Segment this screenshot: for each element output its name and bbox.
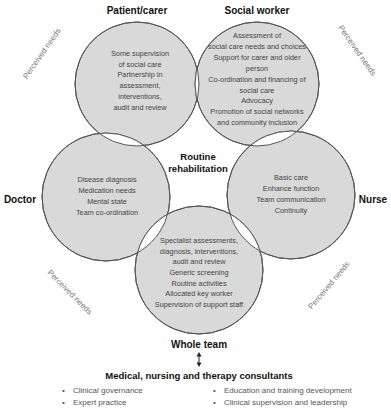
social-worker-circle xyxy=(195,22,319,146)
svg-text:Team co-ordination: Team co-ordination xyxy=(76,208,138,217)
svg-text:interventions,: interventions, xyxy=(118,92,161,101)
svg-text:of social care: of social care xyxy=(119,60,162,69)
role-label-patient-carer: Patient/carer xyxy=(107,5,168,16)
svg-text:•: • xyxy=(213,386,216,395)
center-label-line-1: Routine xyxy=(180,151,215,162)
perceived-needs-top-left: Perceived needs xyxy=(21,27,63,81)
svg-text:•: • xyxy=(62,398,65,407)
svg-text:Advocacy: Advocacy xyxy=(241,96,273,105)
svg-text:Team communication: Team communication xyxy=(257,195,326,204)
role-label-whole-team: Whole team xyxy=(171,339,227,350)
svg-text:Promotion of social networks: Promotion of social networks xyxy=(210,107,304,116)
svg-text:Supervision of support staff: Supervision of support staff xyxy=(155,300,244,309)
consultants-bullets-right: • Education and training development • C… xyxy=(213,386,352,407)
consultants-title: Medical, nursing and therapy consultants xyxy=(105,370,292,381)
svg-text:Support for carer and older: Support for carer and older xyxy=(213,53,301,62)
svg-text:audit and review: audit and review xyxy=(113,103,167,112)
svg-text:diagnosis, interventions,: diagnosis, interventions, xyxy=(160,247,238,256)
double-arrow-icon xyxy=(197,352,202,367)
svg-text:Education and training develop: Education and training development xyxy=(224,386,352,395)
svg-text:Partnership in: Partnership in xyxy=(117,70,162,79)
svg-text:Medication needs: Medication needs xyxy=(78,186,136,195)
svg-text:social care: social care xyxy=(240,86,275,95)
svg-text:Clinical governance: Clinical governance xyxy=(73,386,143,395)
svg-text:Expert practice: Expert practice xyxy=(73,398,127,407)
center-label-line-2: rehabilitation xyxy=(168,163,228,174)
role-label-social-worker: Social worker xyxy=(224,5,289,16)
role-label-nurse: Nurse xyxy=(359,194,388,205)
svg-text:•: • xyxy=(62,386,65,395)
svg-text:person: person xyxy=(246,64,268,73)
svg-text:Clinical supervision and leade: Clinical supervision and leadership xyxy=(224,398,348,407)
perceived-needs-bottom-right: Perceived needs xyxy=(306,260,351,311)
svg-text:social care needs and choices: social care needs and choices xyxy=(208,42,306,51)
svg-text:assessment,: assessment, xyxy=(120,81,161,90)
social-worker-items: Assessment of social care needs and choi… xyxy=(208,31,307,127)
svg-text:Co-ordination and financing of: Co-ordination and financing of xyxy=(208,75,306,84)
svg-text:Mental state: Mental state xyxy=(87,197,127,206)
svg-text:Generic screening: Generic screening xyxy=(169,268,228,277)
svg-text:audit and review: audit and review xyxy=(172,257,226,266)
svg-text:Specialist assessments,: Specialist assessments, xyxy=(160,236,238,245)
svg-text:Allocated key worker: Allocated key worker xyxy=(165,289,233,298)
rehabilitation-venn-diagram: Patient/carer Social worker Doctor Nurse… xyxy=(0,0,391,409)
role-label-doctor: Doctor xyxy=(4,194,36,205)
consultants-bullets-left: • Clinical governance • Expert practice xyxy=(62,386,143,407)
svg-text:Continuity: Continuity xyxy=(275,206,308,215)
perceived-needs-top-right: Perceived needs xyxy=(336,24,378,78)
svg-text:Enhance function: Enhance function xyxy=(263,184,319,193)
svg-text:•: • xyxy=(213,398,216,407)
svg-text:Disease diagnosis: Disease diagnosis xyxy=(77,175,137,184)
svg-text:Some supervision: Some supervision xyxy=(111,49,169,58)
svg-text:and community inclusion: and community inclusion xyxy=(217,118,297,127)
svg-text:Basic care: Basic care xyxy=(274,173,308,182)
perceived-needs-bottom-left: Perceived needs xyxy=(46,268,95,317)
svg-text:Assessment of: Assessment of xyxy=(233,31,282,40)
svg-text:Routine activities: Routine activities xyxy=(171,279,227,288)
